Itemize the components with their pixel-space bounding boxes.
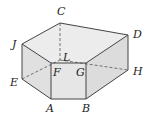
label-F: F <box>52 66 61 79</box>
label-C: C <box>57 5 66 18</box>
label-G: G <box>76 66 85 79</box>
label-L: L <box>62 51 70 64</box>
label-E: E <box>9 76 18 89</box>
label-J: J <box>10 38 17 51</box>
label-H: H <box>132 65 143 78</box>
prism-diagram: C D J L F G H E A B <box>0 0 150 120</box>
label-B: B <box>81 102 90 115</box>
label-D: D <box>132 28 142 41</box>
label-A: A <box>45 102 54 115</box>
